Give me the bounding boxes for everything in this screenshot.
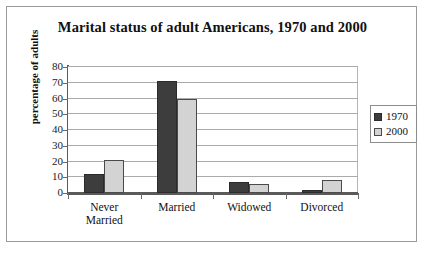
category-label-never-married: Never Married [68,201,141,227]
y-tick-label-20: 20 [37,156,63,167]
y-tick-mark-20 [63,162,68,163]
y-tick-mark-30 [63,146,68,147]
category-label-widowed: Widowed [213,201,286,214]
category-label-divorced: Divorced [286,201,359,214]
legend-item-1970: 1970 [374,109,413,124]
x-tick-mark-2 [213,193,214,199]
y-tick-label-40: 40 [37,124,63,135]
y-tick-label-70: 70 [37,77,63,88]
bar-1970-married [157,81,177,193]
y-tick-mark-40 [63,130,68,131]
chart-title: Marital status of adult Americans, 1970 … [7,19,418,36]
x-tick-mark-1 [141,193,142,199]
legend-label: 1970 [386,111,408,122]
y-tick-label-0: 0 [37,187,63,198]
y-tick-label-10: 10 [37,171,63,182]
y-tick-label-50: 50 [37,108,63,119]
category-label-married: Married [141,201,214,214]
bar-2000-married [177,99,197,194]
y-tick-mark-70 [63,83,68,84]
bar-group [141,67,214,193]
bar-1970-widowed [229,182,249,193]
bar-group [68,67,141,193]
y-tick-label-30: 30 [37,140,63,151]
bar-1970-never-married [84,174,104,193]
bar-2000-divorced [322,180,342,193]
light-square-swatch [374,128,382,136]
bar-group [286,67,359,193]
chart-legend: 19702000 [370,105,417,143]
legend-label: 2000 [386,126,408,137]
y-tick-mark-50 [63,114,68,115]
x-tick-mark-3 [286,193,287,199]
bar-2000-never-married [104,160,124,193]
chart-frame: Marital status of adult Americans, 1970 … [6,6,417,242]
y-tick-mark-60 [63,99,68,100]
y-tick-mark-0 [63,193,68,194]
y-tick-label-80: 80 [37,61,63,72]
chart-figure: Marital status of adult Americans, 1970 … [0,0,428,254]
legend-item-2000: 2000 [374,124,413,139]
dark-square-swatch [374,113,382,121]
y-tick-label-60: 60 [37,93,63,104]
y-tick-mark-80 [63,67,68,68]
y-tick-mark-10 [63,177,68,178]
x-tick-mark-4 [358,193,359,199]
bar-2000-widowed [249,184,269,193]
plot-area [68,67,358,193]
x-tick-mark-0 [68,193,69,199]
bar-group [213,67,286,193]
y-axis-tick-labels: 01020304050607080 [33,7,63,207]
bar-1970-divorced [302,190,322,193]
